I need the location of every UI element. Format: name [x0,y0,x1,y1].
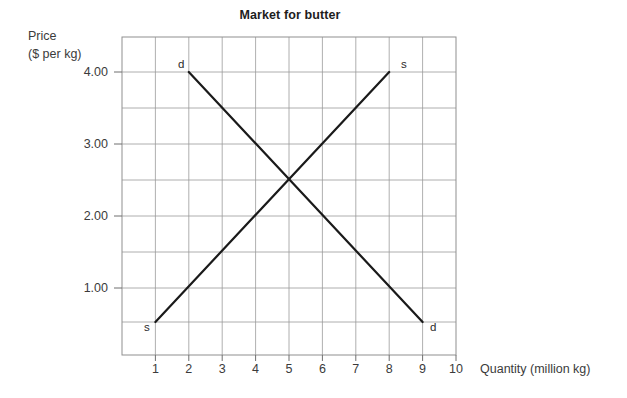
chart-container: Market for butter Price ($ per kg) Quant… [0,0,627,398]
plot-area [0,0,627,398]
supply-curve [155,72,389,322]
x-axis-ticks [155,355,456,361]
y-axis-ticks [114,72,122,288]
demand-curve [189,72,423,322]
vertical-gridlines [155,37,422,355]
